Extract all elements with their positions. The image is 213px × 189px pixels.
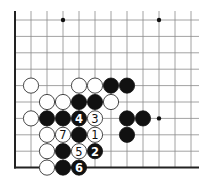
black-stone xyxy=(119,127,134,142)
white-stone xyxy=(55,94,70,109)
white-stone-disc xyxy=(55,94,70,109)
white-stone-disc xyxy=(23,111,38,126)
white-stone xyxy=(87,78,102,93)
move-number-label: 3 xyxy=(91,112,98,126)
white-stone: 7 xyxy=(55,127,70,142)
white-stone xyxy=(23,78,38,93)
white-stone-disc xyxy=(39,144,54,159)
black-stone-disc xyxy=(55,160,70,175)
black-stone xyxy=(39,111,54,126)
white-stone xyxy=(71,78,86,93)
white-stone xyxy=(39,127,54,142)
white-stone-disc xyxy=(23,78,38,93)
black-stone-disc xyxy=(103,78,118,93)
black-stone xyxy=(71,127,86,142)
move-number-label: 4 xyxy=(75,112,83,126)
white-stone-disc xyxy=(71,78,86,93)
star-point xyxy=(157,18,161,22)
white-stone xyxy=(39,160,54,175)
white-stone xyxy=(23,111,38,126)
black-stone xyxy=(55,111,70,126)
black-stone xyxy=(103,78,118,93)
black-stone: 2 xyxy=(87,144,102,159)
go-board: 4371526 xyxy=(0,0,213,189)
black-stone-disc xyxy=(119,127,134,142)
black-stone-disc xyxy=(135,111,150,126)
stones: 4371526 xyxy=(23,78,150,175)
black-stone xyxy=(71,94,86,109)
white-stone: 3 xyxy=(87,111,102,126)
black-stone-disc xyxy=(55,144,70,159)
move-number-label: 5 xyxy=(75,145,82,159)
black-stone xyxy=(119,111,134,126)
black-stone xyxy=(135,111,150,126)
white-stone xyxy=(39,94,54,109)
black-stone xyxy=(87,94,102,109)
white-stone-disc xyxy=(39,127,54,142)
black-stone-disc xyxy=(71,94,86,109)
black-stone xyxy=(55,144,70,159)
move-number-label: 7 xyxy=(59,128,66,142)
white-stone-disc xyxy=(103,94,118,109)
white-stone xyxy=(103,94,118,109)
move-number-label: 1 xyxy=(91,128,98,142)
black-stone-disc xyxy=(71,127,86,142)
black-stone-disc xyxy=(119,111,134,126)
black-stone-disc xyxy=(87,94,102,109)
move-number-label: 6 xyxy=(75,161,83,175)
black-stone xyxy=(119,78,134,93)
star-point xyxy=(61,18,65,22)
black-stone: 4 xyxy=(71,111,86,126)
white-stone-disc xyxy=(87,78,102,93)
black-stone-disc xyxy=(55,111,70,126)
white-stone: 1 xyxy=(87,127,102,142)
star-point xyxy=(157,116,161,120)
black-stone-disc xyxy=(39,111,54,126)
white-stone: 5 xyxy=(71,144,86,159)
black-stone: 6 xyxy=(71,160,86,175)
white-stone-disc xyxy=(39,160,54,175)
black-stone xyxy=(55,160,70,175)
white-stone xyxy=(39,144,54,159)
move-number-label: 2 xyxy=(91,145,99,159)
white-stone-disc xyxy=(39,94,54,109)
black-stone-disc xyxy=(119,78,134,93)
